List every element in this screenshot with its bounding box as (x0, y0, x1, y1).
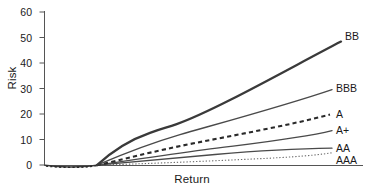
series-label-bbb: BBB (336, 83, 357, 94)
y-tick-label-20: 20 (6, 109, 32, 119)
x-axis-title: Return (44, 173, 340, 185)
risk-return-chart: 60 50 40 30 20 10 0 Risk Return BB BBB A… (0, 0, 385, 191)
series-line-aplus (97, 131, 332, 166)
y-axis-title: Risk (6, 58, 18, 98)
series-label-aa: AA (336, 143, 350, 154)
chart-plot-area (0, 0, 385, 191)
y-tick-label-10: 10 (6, 135, 32, 145)
series-label-aplus: A+ (336, 125, 349, 136)
y-tick-label-60: 60 (6, 7, 32, 17)
series-label-aaa: AAA (336, 155, 357, 166)
series-line-bbb (97, 90, 332, 166)
axis-lines (45, 11, 364, 166)
series-label-bb: BB (345, 31, 359, 42)
series-label-a: A (336, 109, 343, 120)
y-tick-label-50: 50 (6, 33, 32, 43)
y-tick-marks (40, 12, 45, 165)
y-tick-label-0: 0 (6, 160, 32, 170)
series-line-bb (97, 42, 341, 166)
